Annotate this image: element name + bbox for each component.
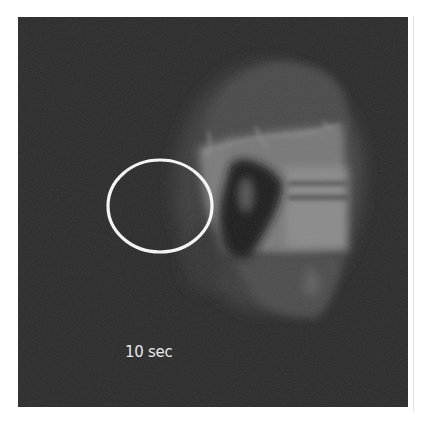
time-label: 10 sec [125,343,172,361]
frame-border-line [413,16,414,411]
fluoroscopy-image: 10 sec [18,17,408,407]
image-content [18,17,408,407]
